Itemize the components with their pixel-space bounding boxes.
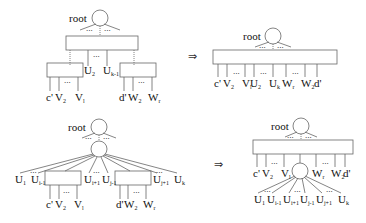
tree-transformation-diagram: root ... ... ... U2 Uk-1 ... ... c' V2 V… — [0, 0, 366, 223]
svg-text:V2: V2 — [55, 91, 66, 104]
ellipsis: ... — [103, 131, 110, 141]
ellipsis: ... — [104, 23, 111, 33]
svg-text:c': c' — [46, 198, 53, 210]
inner-node — [91, 141, 107, 157]
ellipsis: ... — [85, 131, 92, 141]
ellipsis: ... — [93, 165, 100, 175]
svg-text:U2: U2 — [250, 77, 261, 90]
ellipsis: ... — [233, 66, 240, 76]
ellipsis: ... — [64, 75, 71, 85]
svg-text:Wr: Wr — [312, 167, 324, 180]
left-leaf-labels: c' V2 Vl — [46, 198, 84, 211]
ellipsis: ... — [133, 185, 140, 195]
leaf-labels: c' V2 Vl U2 Uk Wr W2 d' — [214, 77, 322, 90]
svg-text:W2: W2 — [301, 77, 314, 90]
svg-text:U1: U1 — [15, 173, 26, 186]
merged-node-box — [253, 140, 353, 154]
svg-text:U2: U2 — [84, 64, 95, 77]
right-leaf-labels: d' W2 Wr — [119, 91, 160, 104]
right-leaf-labels: d' W2 Wr — [116, 198, 155, 211]
svg-text:Wr: Wr — [143, 198, 155, 211]
svg-text:Vl: Vl — [74, 198, 84, 211]
svg-text:V2: V2 — [262, 167, 273, 180]
ellipsis: ... — [271, 156, 278, 166]
panel-top-right — [213, 28, 337, 77]
ellipsis: ... — [292, 66, 299, 76]
svg-text:V2: V2 — [223, 77, 234, 90]
svg-text:Uk-1: Uk-1 — [103, 64, 119, 77]
svg-text:W2: W2 — [128, 91, 141, 104]
ellipsis: ... — [260, 66, 267, 76]
u-labels: U1 Ui-1 Ui+1 Uj-1 Uj+1 Uk — [15, 173, 185, 186]
svg-text:Wr: Wr — [282, 77, 294, 90]
ellipsis: ... — [305, 130, 312, 140]
svg-text:Uj+1: Uj+1 — [316, 193, 332, 206]
svg-text:d': d' — [116, 198, 124, 210]
mid-labels: U2 Uk-1 — [84, 64, 119, 77]
svg-text:Uk: Uk — [174, 173, 185, 186]
svg-text:d': d' — [314, 77, 322, 89]
panel-bottom-right — [253, 118, 353, 193]
svg-text:c': c' — [253, 167, 260, 179]
svg-text:Vl: Vl — [75, 91, 85, 104]
ellipsis: ... — [277, 40, 284, 50]
svg-text:d': d' — [119, 91, 127, 103]
svg-text:Ui-1: Ui-1 — [267, 193, 282, 206]
svg-text:Vl: Vl — [281, 167, 291, 180]
svg-text:U1: U1 — [254, 193, 265, 206]
svg-text:Uk: Uk — [269, 77, 280, 90]
merged-node-box — [213, 50, 337, 64]
svg-text:c': c' — [214, 77, 221, 89]
root-label: root — [69, 12, 87, 24]
transform-arrow: ⇒ — [214, 158, 223, 171]
transform-arrow: ⇒ — [188, 50, 197, 63]
svg-text:Wr: Wr — [148, 91, 160, 104]
svg-text:c': c' — [46, 91, 53, 103]
root-label: root — [68, 121, 86, 133]
ellipsis: ... — [93, 49, 100, 59]
ellipsis: ... — [63, 185, 70, 195]
ellipsis: ... — [287, 130, 294, 140]
svg-text:V2: V2 — [55, 198, 66, 211]
ellipsis: ... — [322, 156, 329, 166]
svg-text:Ui-1: Ui-1 — [31, 173, 46, 186]
u-labels: U1 Ui-1 Ui+1 Uj-1 Uj+1 Uk — [254, 193, 349, 206]
ellipsis: ... — [259, 40, 266, 50]
merged-node-box — [66, 36, 138, 50]
left-leaf-labels: c' V2 Vl — [46, 91, 85, 104]
panel-bottom-left — [20, 119, 177, 199]
ellipsis: ... — [86, 23, 93, 33]
svg-text:Uj-1: Uj-1 — [300, 193, 315, 206]
right-child-box — [115, 171, 151, 185]
ellipsis: ... — [138, 75, 145, 85]
svg-text:Uk: Uk — [338, 193, 349, 206]
ellipsis: ... — [326, 184, 333, 194]
svg-text:Uj-1: Uj-1 — [102, 173, 117, 186]
svg-text:Ui+1: Ui+1 — [283, 193, 299, 206]
left-child-box — [45, 171, 81, 185]
svg-text:d': d' — [343, 167, 351, 179]
svg-text:W2: W2 — [124, 198, 137, 211]
